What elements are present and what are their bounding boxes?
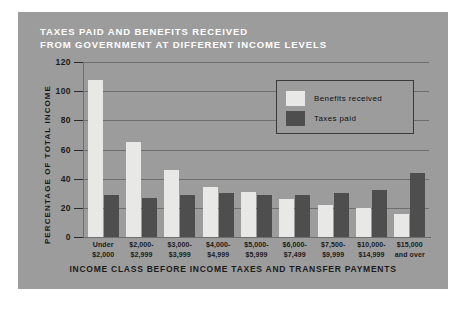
x-axis-tick-label-line: $2,000 (84, 250, 122, 260)
x-axis-tick-label-line: $3,999 (161, 250, 199, 260)
bar-taxes-paid (295, 195, 310, 237)
x-axis-tick-label-line: $5,000- (237, 240, 275, 250)
x-axis-tick-label-line: $14,999 (352, 250, 390, 260)
x-axis-tick-label: $7,500-$9,999 (314, 240, 352, 259)
y-axis-tick (74, 208, 83, 209)
bar-group (199, 62, 237, 237)
bar-taxes-paid (372, 190, 387, 237)
x-axis-tick-label-line: $15,000 (391, 240, 429, 250)
x-axis-tick-label-line: $5,999 (237, 250, 275, 260)
bar-benefits-received (203, 187, 218, 237)
x-axis-tick-label: $10,000-$14,999 (352, 240, 390, 259)
bar-group (161, 62, 199, 237)
y-axis-tick-label: 0 (66, 232, 71, 242)
bar-group (84, 62, 122, 237)
x-axis-tick-label: $2,000-$2,999 (122, 240, 160, 259)
chart-figure: TAXES PAID AND BENEFITS RECEIVED FROM GO… (18, 12, 448, 289)
legend-swatch-benefits-icon (286, 91, 305, 106)
legend-item-benefits: Benefits received (286, 88, 413, 108)
y-axis-tick (74, 62, 83, 63)
x-axis-tick-label: $15,000and over (391, 240, 429, 259)
x-axis-title: INCOME CLASS BEFORE INCOME TAXES AND TRA… (18, 264, 448, 274)
x-axis-tick-label-line: Under (84, 240, 122, 250)
y-axis-tick (74, 150, 83, 151)
x-axis-tick-label-line: $4,000- (199, 240, 237, 250)
y-axis-tick-label: 80 (61, 115, 71, 125)
x-axis-tick-label-line: and over (391, 250, 429, 260)
legend-item-taxes: Taxes paid (286, 108, 413, 128)
x-axis-tick-label-line: $2,999 (122, 250, 160, 260)
bar-taxes-paid (180, 195, 195, 237)
bar-group (122, 62, 160, 237)
x-axis-tick-labels: Under$2,000$2,000-$2,999$3,000-$3,999$4,… (84, 240, 429, 259)
bar-benefits-received (318, 205, 333, 237)
x-axis-tick-label: $6,000-$7,499 (276, 240, 314, 259)
y-axis-tick-label: 60 (61, 145, 71, 155)
x-axis-tick-label-line: $3,000- (161, 240, 199, 250)
x-axis-tick-label-line: $10,000- (352, 240, 390, 250)
bar-group (237, 62, 275, 237)
y-axis-title: PERCENTAGE OF TOTAL INCOME (43, 80, 52, 250)
bar-benefits-received (394, 214, 409, 237)
x-axis-tick-label-line: $2,000- (122, 240, 160, 250)
bar-benefits-received (88, 80, 103, 238)
x-axis-tick-label-line: $7,500- (314, 240, 352, 250)
bar-taxes-paid (219, 193, 234, 237)
x-axis-tick-label-line: $4,999 (199, 250, 237, 260)
chart-title: TAXES PAID AND BENEFITS RECEIVED FROM GO… (40, 26, 370, 51)
y-axis-tick-label: 40 (61, 174, 71, 184)
x-axis-tick-label: $5,000-$5,999 (237, 240, 275, 259)
x-axis-tick-label: $4,000-$4,999 (199, 240, 237, 259)
bar-taxes-paid (104, 195, 119, 237)
x-axis-tick-label: $3,000-$3,999 (161, 240, 199, 259)
legend-swatch-taxes-icon (286, 111, 305, 126)
y-axis-tick-label: 100 (56, 86, 71, 96)
y-axis-tick-label: 20 (61, 203, 71, 213)
bar-benefits-received (356, 208, 371, 237)
gridline (84, 237, 429, 238)
y-axis-tick (74, 179, 83, 180)
bar-benefits-received (241, 192, 256, 237)
chart-title-line-1: TAXES PAID AND BENEFITS RECEIVED (40, 26, 370, 39)
bar-benefits-received (164, 170, 179, 237)
bar-benefits-received (279, 199, 294, 237)
chart-legend: Benefits received Taxes paid (276, 80, 414, 134)
bar-benefits-received (126, 142, 141, 237)
x-axis-tick-label-line: $9,999 (314, 250, 352, 260)
x-axis-tick-label-line: $6,000- (276, 240, 314, 250)
chart-title-line-2: FROM GOVERNMENT AT DIFFERENT INCOME LEVE… (40, 39, 370, 52)
y-axis-tick (74, 120, 83, 121)
x-axis-tick-label: Under$2,000 (84, 240, 122, 259)
y-axis-tick (74, 91, 83, 92)
bar-taxes-paid (142, 198, 157, 237)
y-axis-tick (74, 237, 83, 238)
x-axis-tick-label-line: $7,499 (276, 250, 314, 260)
bar-taxes-paid (334, 193, 349, 237)
legend-label-taxes: Taxes paid (314, 114, 356, 123)
bar-taxes-paid (257, 195, 272, 237)
bar-taxes-paid (410, 173, 425, 237)
y-axis-tick-label: 120 (56, 57, 71, 67)
legend-label-benefits: Benefits received (314, 94, 382, 103)
